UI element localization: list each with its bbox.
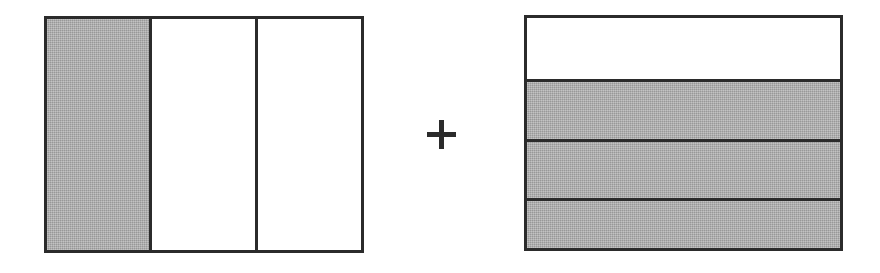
area-cell-left-3	[255, 19, 361, 250]
plus-icon-vertical-bar	[439, 120, 444, 149]
plus-icon: +	[427, 120, 456, 149]
area-cell-right-2	[527, 79, 840, 139]
area-model-right	[524, 15, 843, 251]
figure-canvas: +	[0, 0, 880, 273]
plus-operator-symbol: +	[427, 120, 428, 121]
area-cell-right-3	[527, 139, 840, 198]
area-cell-left-1	[47, 19, 149, 250]
area-cell-right-4	[527, 198, 840, 248]
area-model-left	[44, 16, 364, 253]
area-cell-left-2	[149, 19, 255, 250]
area-cell-right-1	[527, 18, 840, 79]
